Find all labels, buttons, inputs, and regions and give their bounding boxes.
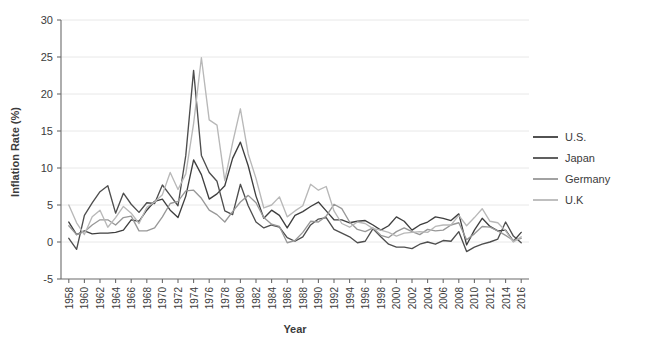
x-tick-label: 1968 (142, 287, 153, 310)
x-tick-label: 2016 (516, 287, 527, 310)
x-tick-label: 1990 (313, 287, 324, 310)
y-tick-label: -5 (43, 273, 53, 285)
x-tick-label: 1966 (126, 287, 137, 310)
data-series-group (69, 58, 521, 252)
series-line-uk (69, 58, 521, 242)
x-tick-label: 1992 (329, 287, 340, 310)
x-tick-label: 1960 (79, 287, 90, 310)
x-tick-label: 2004 (423, 287, 434, 310)
y-tick-label: 10 (41, 162, 53, 174)
x-tick-label: 1988 (298, 287, 309, 310)
x-tick-label: 1978 (220, 287, 231, 310)
chart-canvas: -5051015202530 1958196019621964196619681… (0, 0, 649, 344)
x-tick-label: 1976 (204, 287, 215, 310)
x-axis-title: Year (283, 323, 307, 335)
x-tick-label: 1994 (345, 287, 356, 310)
y-tick-label: 25 (41, 51, 53, 63)
x-tick-label: 1996 (360, 287, 371, 310)
x-tick-label: 1974 (189, 287, 200, 310)
x-tick-label: 1972 (173, 287, 184, 310)
gridlines-group (61, 20, 529, 242)
x-tick-label: 2000 (391, 287, 402, 310)
x-tick-label: 1998 (376, 287, 387, 310)
x-tick-label: 2012 (485, 287, 496, 310)
series-line-us (69, 142, 521, 245)
x-tick-label: 2008 (454, 287, 465, 310)
y-axis-title: Inflation Rate (%) (9, 107, 21, 197)
x-tick-label: 1986 (282, 287, 293, 310)
x-tick-label: 1982 (251, 287, 262, 310)
x-tick-label: 2010 (469, 287, 480, 310)
legend-label-japan[interactable]: Japan (565, 152, 595, 164)
inflation-rate-line-chart: -5051015202530 1958196019621964196619681… (0, 0, 649, 344)
x-axis-group: 1958196019621964196619681970197219741976… (61, 279, 529, 309)
y-tick-label: 0 (47, 236, 53, 248)
legend-group: U.S.JapanGermanyU.K (533, 131, 611, 206)
x-tick-label: 1958 (64, 287, 75, 310)
y-tick-label: 30 (41, 14, 53, 26)
legend-label-uk[interactable]: U.K (565, 194, 584, 206)
x-tick-label: 2014 (501, 287, 512, 310)
x-tick-label: 1984 (267, 287, 278, 310)
y-axis-group: -5051015202530 (41, 14, 61, 285)
y-tick-label: 5 (47, 199, 53, 211)
y-tick-label: 20 (41, 88, 53, 100)
legend-label-germany[interactable]: Germany (565, 173, 611, 185)
x-tick-label: 2002 (407, 287, 418, 310)
x-tick-label: 1980 (235, 287, 246, 310)
x-tick-label: 2006 (438, 287, 449, 310)
y-tick-label: 15 (41, 125, 53, 137)
x-tick-label: 1962 (95, 287, 106, 310)
legend-label-us[interactable]: U.S. (565, 131, 586, 143)
x-tick-label: 1970 (157, 287, 168, 310)
x-tick-label: 1964 (111, 287, 122, 310)
